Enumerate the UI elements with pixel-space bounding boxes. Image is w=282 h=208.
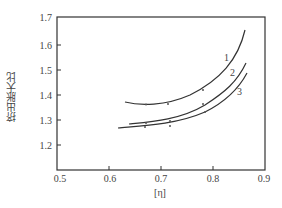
plot-frame [57, 17, 265, 170]
svg-text:1.7: 1.7 [40, 12, 53, 23]
svg-text:0.8: 0.8 [207, 173, 220, 184]
curve-label-2: 2 [230, 67, 235, 78]
curve-2 [129, 63, 246, 124]
svg-text:0.6: 0.6 [104, 173, 117, 184]
x-axis-label: [η] [154, 187, 166, 198]
curve-1 [125, 30, 245, 104]
data-markers [144, 89, 206, 128]
svg-text:1.2: 1.2 [40, 140, 53, 151]
svg-text:0.9: 0.9 [258, 173, 271, 184]
y-tick-labels: 1.2 1.3 1.4 1.5 1.6 1.7 [40, 12, 53, 151]
x-tick-labels: 0.5 0.6 0.7 0.8 0.9 [54, 173, 271, 184]
svg-text:1.6: 1.6 [40, 40, 53, 51]
curve-label-3: 3 [237, 86, 242, 97]
svg-text:0.5: 0.5 [54, 173, 67, 184]
svg-text:1.4: 1.4 [40, 90, 53, 101]
svg-text:1.3: 1.3 [40, 115, 53, 126]
x-ticks [109, 166, 213, 170]
svg-text:0.7: 0.7 [155, 173, 168, 184]
chart: 1.2 1.3 1.4 1.5 1.6 1.7 0.5 0.6 0.7 0.8 … [0, 0, 282, 208]
curve-3 [118, 73, 247, 128]
y-axis-label: 挤出胀大比 [6, 72, 20, 124]
curve-label-1: 1 [224, 52, 229, 63]
svg-text:1.5: 1.5 [40, 65, 53, 76]
